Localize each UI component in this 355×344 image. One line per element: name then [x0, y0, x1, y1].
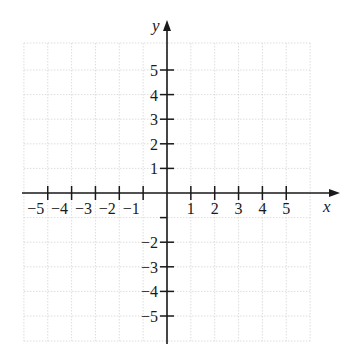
- y-axis-label: y: [150, 16, 160, 35]
- y-tick-label: −2: [141, 234, 158, 251]
- x-tick-label: −3: [75, 200, 92, 217]
- x-tick-label: 2: [211, 200, 219, 217]
- y-tick-label: 1: [150, 160, 158, 177]
- y-tick-label: 5: [150, 62, 158, 79]
- axes: x y: [22, 16, 340, 344]
- y-tick-label: −5: [141, 308, 158, 325]
- x-tick-label: 1: [187, 200, 195, 217]
- y-axis-arrow-icon: [163, 20, 171, 31]
- x-tick-label: −1: [123, 200, 140, 217]
- y-tick-label: −4: [141, 283, 158, 300]
- x-tick-label: 5: [282, 200, 290, 217]
- x-tick-label: −4: [51, 200, 68, 217]
- coordinate-plane: x y −5−4−3−2−11234554321−2−3−4−5: [0, 0, 355, 344]
- x-axis-arrow-icon: [329, 189, 340, 197]
- y-tick-label: 3: [150, 111, 158, 128]
- y-tick-label: 2: [150, 136, 158, 153]
- x-tick-label: −2: [99, 200, 116, 217]
- y-tick-label: 4: [150, 87, 158, 104]
- x-tick-label: 3: [235, 200, 243, 217]
- y-tick-label: −3: [141, 259, 158, 276]
- x-tick-label: 4: [258, 200, 266, 217]
- x-axis-label: x: [322, 197, 331, 216]
- x-tick-label: −5: [27, 200, 44, 217]
